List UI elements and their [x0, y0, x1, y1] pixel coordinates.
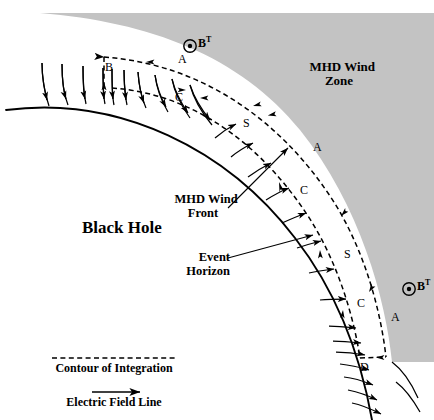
mhd-wind-front-text: MHD WindFront — [175, 192, 238, 220]
mhd-wind-zone-label: MHD WindZone — [287, 45, 391, 89]
contour-label-A-top: A — [178, 52, 187, 67]
black-hole-label: Black Hole — [82, 218, 212, 237]
contour-label-C-mid: C — [300, 183, 308, 198]
b-toroidal-bottom-letter: B — [417, 279, 425, 293]
contour-label-S-lower: S — [344, 247, 351, 262]
contour-label-B-left: B — [105, 60, 113, 75]
mhd-wind-front-label: MHD WindFront — [157, 178, 249, 220]
legend-item-contour-label: Contour of Integration — [34, 362, 194, 375]
contour-label-A-lower: A — [391, 310, 400, 325]
event-horizon-label: EventHorizon — [168, 236, 230, 278]
b-toroidal-bottom-label: BT — [417, 278, 430, 294]
figure-canvas: MHD WindZone Black Hole MHD WindFront Ev… — [0, 0, 434, 420]
b-toroidal-top-label: BT — [198, 35, 211, 51]
contour-label-A-mid: A — [313, 140, 322, 155]
b-toroidal-top-letter: B — [198, 36, 206, 50]
contour-label-C-top: C — [175, 90, 183, 105]
contour-label-C-lower: C — [357, 296, 365, 311]
legend-item-field-line-label: Electric Field Line — [34, 396, 194, 409]
mhd-wind-zone-text: MHD WindZone — [309, 59, 375, 89]
event-horizon-text: EventHorizon — [186, 250, 230, 278]
contour-label-D-bottom: D — [360, 360, 369, 375]
b-toroidal-top-superscript: T — [206, 35, 211, 44]
contour-label-S-upper: S — [243, 116, 250, 131]
b-toroidal-bottom-superscript: T — [425, 278, 430, 287]
